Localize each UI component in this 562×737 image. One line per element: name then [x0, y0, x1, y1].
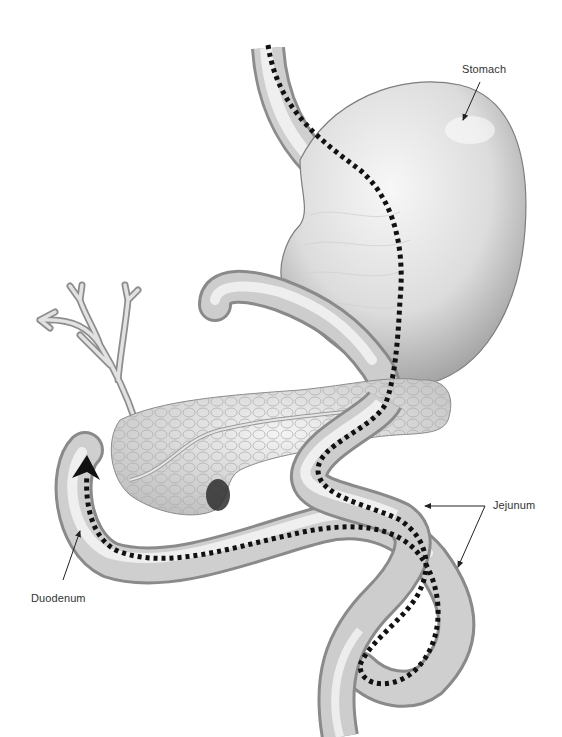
bile-duct-tree: [40, 285, 138, 420]
stomach-label: Stomach: [462, 63, 506, 75]
jejunum-label: Jejunum: [493, 499, 535, 511]
duodenum-label: Duodenum: [31, 592, 86, 604]
anatomy-illustration: [0, 0, 562, 737]
pancreas: [111, 379, 451, 515]
stomach: [281, 82, 526, 386]
